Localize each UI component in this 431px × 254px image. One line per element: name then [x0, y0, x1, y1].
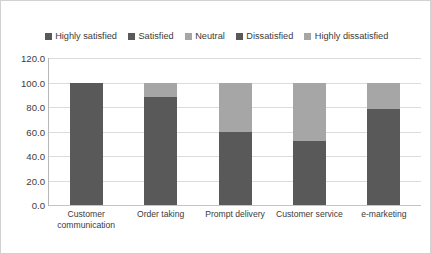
- bar-segment[interactable]: [70, 83, 103, 206]
- bar-segment[interactable]: [219, 83, 252, 90]
- chart-container: Highly satisfiedSatisfiedNeutralDissatis…: [0, 0, 431, 254]
- y-axis-tick-label: 40.0: [5, 151, 45, 162]
- legend-item[interactable]: Dissatisfied: [236, 31, 293, 41]
- x-axis-tick-label: e-marketing: [347, 209, 421, 230]
- bar-segment[interactable]: [293, 83, 326, 142]
- bar-slot: [272, 58, 346, 205]
- bar-segment[interactable]: [144, 83, 177, 98]
- legend-item[interactable]: Highly satisfied: [45, 31, 117, 41]
- bar-slot: [198, 58, 272, 205]
- bar-segment[interactable]: [293, 141, 326, 205]
- y-axis-tick-label: 80.0: [5, 102, 45, 113]
- y-axis-tick-label: 60.0: [5, 126, 45, 137]
- bar-slot: [123, 58, 197, 205]
- bar-segment[interactable]: [367, 83, 400, 110]
- stacked-bar[interactable]: [144, 58, 177, 205]
- stacked-bar[interactable]: [293, 58, 326, 205]
- legend-label: Dissatisfied: [246, 31, 293, 41]
- legend-swatch-icon: [185, 33, 192, 40]
- bar-group: [49, 58, 421, 205]
- stacked-bar[interactable]: [367, 58, 400, 205]
- legend-label: Satisfied: [138, 31, 173, 41]
- bar-segment[interactable]: [144, 97, 177, 205]
- bar-slot: [49, 58, 123, 205]
- bar-segment[interactable]: [367, 109, 400, 205]
- legend-swatch-icon: [128, 33, 135, 40]
- stacked-bar[interactable]: [70, 58, 103, 205]
- legend-item[interactable]: Highly dissatisfied: [304, 31, 388, 41]
- x-axis-tick-labels: Customer communicationOrder takingPrompt…: [49, 209, 421, 230]
- x-axis-tick-label: Customer service: [272, 209, 346, 230]
- legend-swatch-icon: [304, 33, 311, 40]
- stacked-bar[interactable]: [219, 58, 252, 205]
- x-axis-tick-label: Order taking: [123, 209, 197, 230]
- legend-item[interactable]: Satisfied: [128, 31, 174, 41]
- legend-swatch-icon: [236, 33, 243, 40]
- x-axis-tick-label: Prompt delivery: [198, 209, 272, 230]
- y-axis-tick-labels: 120.0100.080.060.040.020.00.0: [1, 58, 45, 205]
- x-axis-tick-label: Customer communication: [49, 209, 123, 230]
- legend-item[interactable]: Neutral: [185, 31, 225, 41]
- legend-label: Highly satisfied: [55, 31, 117, 41]
- legend-swatch-icon: [45, 33, 52, 40]
- bar-segment[interactable]: [219, 132, 252, 206]
- legend-label: Highly dissatisfied: [315, 31, 389, 41]
- y-axis-tick-label: 100.0: [5, 77, 45, 88]
- bar-segment[interactable]: [219, 90, 252, 132]
- chart-legend: Highly satisfiedSatisfiedNeutralDissatis…: [1, 31, 431, 41]
- legend-label: Neutral: [195, 31, 225, 41]
- y-axis-tick-label: 120.0: [5, 53, 45, 64]
- y-axis-tick-label: 0.0: [5, 200, 45, 211]
- bar-slot: [347, 58, 421, 205]
- gridline: [49, 205, 421, 206]
- y-axis-tick-label: 20.0: [5, 175, 45, 186]
